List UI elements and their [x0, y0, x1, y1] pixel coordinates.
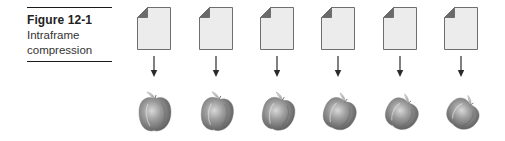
frame-5: [383, 0, 423, 141]
figure-title-line-1: Intraframe: [27, 28, 122, 43]
apple-icon: [442, 88, 482, 136]
down-arrow-icon: [334, 56, 342, 78]
apple-icon: [319, 88, 359, 136]
down-arrow-icon: [212, 56, 220, 78]
document-icon: [137, 7, 171, 50]
down-arrow-icon: [150, 56, 158, 78]
document-icon: [444, 7, 478, 50]
document-icon: [383, 7, 417, 50]
down-arrow-icon: [273, 56, 281, 78]
frame-6: [444, 0, 484, 141]
document-icon: [199, 7, 233, 50]
apple-icon: [135, 88, 175, 136]
frame-4: [321, 0, 361, 141]
frame-1: [137, 0, 177, 141]
apple-icon: [381, 88, 421, 136]
frame-3: [260, 0, 300, 141]
apple-icon: [258, 88, 298, 136]
down-arrow-icon: [457, 56, 465, 78]
frame-2: [199, 0, 239, 141]
caption-bottom-rule: [27, 61, 112, 62]
figure-number: Figure 12-1: [27, 13, 92, 27]
down-arrow-icon: [396, 56, 404, 78]
figure-title: Intraframe compression: [27, 28, 122, 58]
figure-title-line-2: compression: [27, 43, 122, 58]
document-icon: [260, 7, 294, 50]
apple-icon: [197, 88, 237, 136]
document-icon: [321, 7, 355, 50]
caption-top-rule: [27, 7, 112, 8]
